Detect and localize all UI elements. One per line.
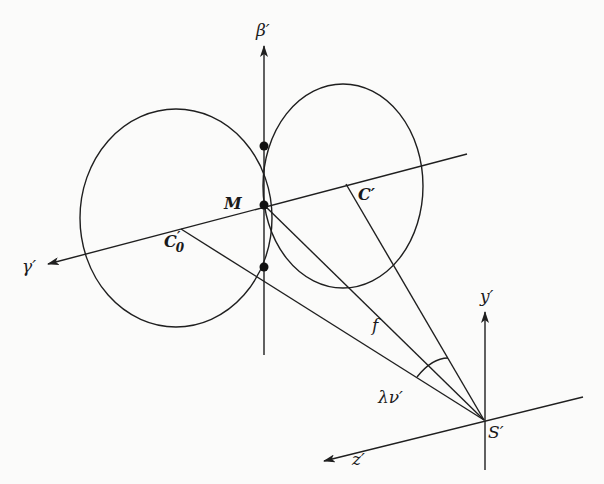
ray-C-prime	[346, 184, 484, 420]
point-S-label: S′	[488, 422, 504, 442]
z-axis-label: z′	[351, 449, 365, 469]
left-circle	[80, 109, 272, 327]
point-M	[260, 201, 269, 210]
intersection-bottom-point	[260, 263, 269, 272]
gamma-axis-label: γ′	[22, 256, 36, 276]
angle-arc	[417, 358, 448, 377]
point-M-label: M	[223, 194, 243, 213]
ray-M-f	[264, 205, 484, 420]
projection-diagram: β′ γ′ M C′ C0′ f λν′ y′ z′ S′	[0, 0, 604, 484]
ray-C0-prime	[181, 229, 484, 420]
gamma-axis	[48, 154, 467, 264]
y-axis-label: y′	[479, 286, 494, 306]
intersection-top-point	[260, 142, 269, 151]
point-C-prime-label: C′	[358, 185, 376, 204]
beta-axis-label: β′	[255, 20, 270, 40]
point-C0-prime-label: C0′	[164, 229, 185, 255]
lambda-nu-label: λν′	[377, 387, 403, 407]
